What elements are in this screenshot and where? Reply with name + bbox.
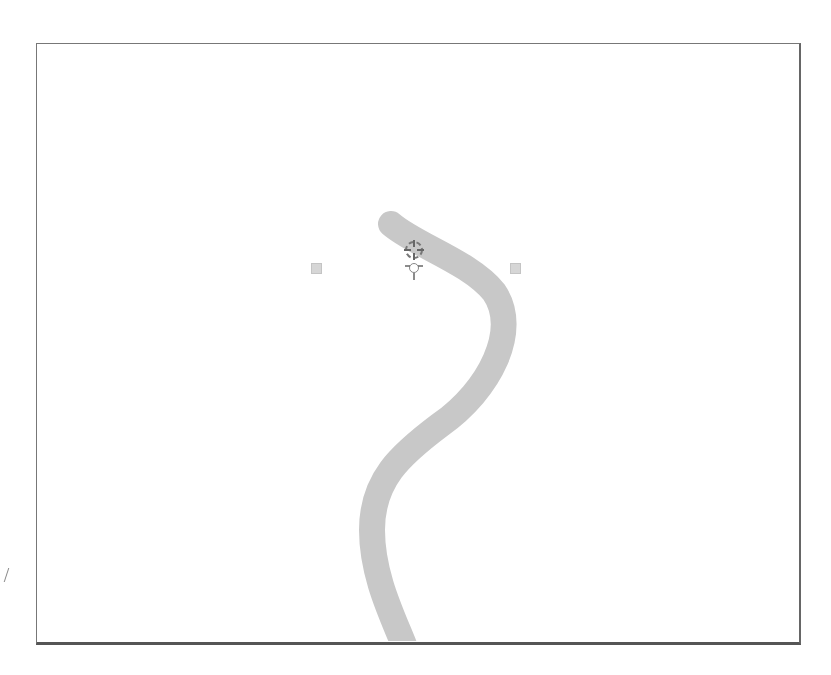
- right-control-handle[interactable]: [510, 263, 521, 274]
- bezier-stroke[interactable]: [372, 224, 504, 645]
- canvas-overlay: [0, 0, 831, 675]
- left-control-handle[interactable]: [311, 263, 322, 274]
